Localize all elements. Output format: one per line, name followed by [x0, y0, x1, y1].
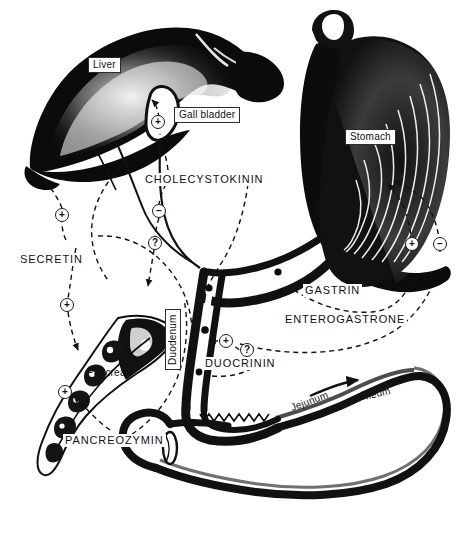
- marker-cholecystokinin-unknown: ?: [148, 236, 162, 250]
- hormone-label-cholecystokinin: CHOLECYSTOKININ: [143, 173, 265, 186]
- diagram-canvas: [0, 0, 467, 533]
- hormone-label-secretin: SECRETIN: [18, 253, 85, 266]
- marker-gastrin-stomach-plus: +: [405, 237, 419, 251]
- marker-sign: +: [56, 209, 68, 221]
- path-secretin-liver-lower: [62, 221, 66, 240]
- hormone-label-enterogastrone: ENTEROGASTRONE: [283, 313, 407, 326]
- hormone-label-duocrinin: DUOCRININ: [203, 357, 277, 370]
- marker-cholecystokinin-gall-bladder-plus: +: [151, 115, 165, 129]
- marker-secretin-liver-plus: +: [55, 208, 69, 222]
- organ-label-gall-bladder: Gall bladder: [174, 107, 240, 123]
- organ-label-liver: Liver: [88, 57, 121, 73]
- marker-sign: ?: [149, 237, 161, 249]
- marker-sign: +: [59, 386, 71, 398]
- marker-duocrinin-duodenum-plus: +: [219, 334, 233, 348]
- marker-enterogastrone-stomach-minus: −: [433, 237, 447, 251]
- marker-secretin-pancreas-plus: +: [60, 298, 74, 312]
- path-secretin-pancreas-lower: [68, 312, 78, 350]
- marker-duocrinin-unknown: ?: [240, 343, 254, 357]
- pancreas-organ: [38, 316, 174, 475]
- hormone-label-pancreozymin: PANCREOZYMIN: [63, 434, 166, 447]
- path-liver-hook: [92, 168, 120, 280]
- marker-sign: +: [220, 335, 232, 347]
- marker-sign: −: [434, 238, 446, 250]
- organ-label-duodenum: Duodenum: [165, 309, 181, 370]
- intestine-organ: [123, 272, 447, 495]
- marker-pancreozymin-pancreas-plus: +: [58, 385, 72, 399]
- marker-cholecystokinin-stomach-minus: −: [152, 204, 166, 218]
- organ-label-stomach: Stomach: [345, 129, 396, 145]
- marker-sign: −: [153, 205, 165, 217]
- marker-sign: +: [406, 238, 418, 250]
- hormone-label-gastrin: GASTRIN: [303, 284, 362, 297]
- anatomical-diagram: Liver Gall bladder Stomach Pancreas Duod…: [0, 0, 467, 533]
- organ-label-pancreas: Pancreas: [83, 366, 135, 380]
- marker-sign: +: [152, 116, 164, 128]
- marker-sign: +: [61, 299, 73, 311]
- marker-sign: ?: [241, 344, 253, 356]
- path-cck-q-lower: [148, 250, 154, 286]
